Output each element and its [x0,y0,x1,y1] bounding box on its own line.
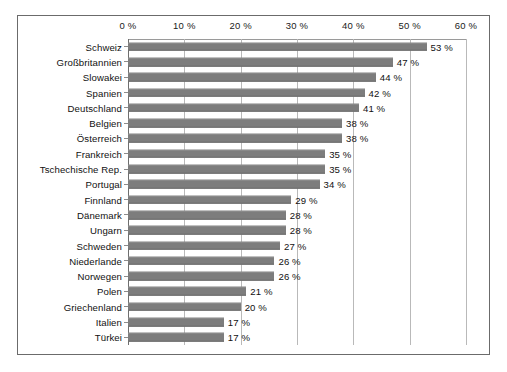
bar-row: Großbritannien47 % [0,54,507,69]
bar [128,272,274,281]
bar [128,104,359,113]
bar-value-label: 29 % [295,194,317,205]
category-label-gro-britannien: Großbritannien [57,56,122,67]
x-tick-label-40: 40 % [342,20,364,31]
bar [128,318,224,327]
x-tick-label-10: 10 % [173,20,195,31]
category-label-norwegen: Norwegen [77,271,122,282]
bar [128,257,274,266]
bar-row: Frankreich35 % [0,146,507,161]
bar-row: Portugal34 % [0,177,507,192]
bar [128,149,325,158]
bar-value-label: 20 % [245,301,267,312]
bar [128,195,291,204]
category-label-schweden: Schweden [76,240,122,251]
bar [128,165,325,174]
bar [128,58,393,67]
category-label-d-nemark: Dänemark [77,209,122,220]
bar-value-label: 42 % [369,87,391,98]
category-label-schweiz: Schweiz [86,41,122,52]
bar [128,88,365,97]
x-tick-label-20: 20 % [229,20,251,31]
bar-value-label: 44 % [380,72,402,83]
category-label-ungarn: Ungarn [90,225,122,236]
bar [128,73,376,82]
category-label-polen: Polen [97,286,122,297]
bar-value-label: 38 % [346,118,368,129]
category-label-finnland: Finnland [84,194,122,205]
category-label-belgien: Belgien [89,118,122,129]
bar-row: Schweden27 % [0,238,507,253]
bar-value-label: 26 % [278,255,300,266]
bar [128,180,320,189]
bar-value-label: 34 % [324,179,346,190]
category-label-deutschland: Deutschland [68,102,122,113]
bar-value-label: 17 % [228,332,250,343]
x-tick-label-50: 50 % [398,20,420,31]
bar-value-label: 17 % [228,317,250,328]
bar-value-label: 27 % [284,240,306,251]
bar [128,333,224,342]
bar-row: Österreich38 % [0,131,507,146]
bar [128,241,280,250]
bar-row: Spanien42 % [0,85,507,100]
bar-value-label: 28 % [290,209,312,220]
category-label--sterreich: Österreich [77,133,122,144]
bar-row: Deutschland41 % [0,100,507,115]
bar-row: Belgien38 % [0,116,507,131]
category-label-portugal: Portugal [85,179,122,190]
category-label-spanien: Spanien [86,87,122,98]
bar [128,211,286,220]
bar-row: Norwegen26 % [0,269,507,284]
bar [128,226,286,235]
bar-value-label: 28 % [290,225,312,236]
category-label-t-rkei: Türkei [95,332,122,343]
category-label-tschechische-rep-: Tschechische Rep. [40,164,122,175]
category-label-niederlande: Niederlande [69,255,122,266]
bar [128,42,427,51]
chart-root: 0 %10 %20 %30 %40 %50 %60 % Schweiz53 %G… [0,0,507,372]
bar-value-label: 47 % [397,56,419,67]
category-label-slowakei: Slowakei [83,72,122,83]
bar-value-label: 53 % [431,41,453,52]
bar-row: Dänemark28 % [0,207,507,222]
bar-row: Türkei17 % [0,330,507,345]
x-tick-label-0: 0 % [120,20,137,31]
bar-row: Polen21 % [0,284,507,299]
category-label-frankreich: Frankreich [76,148,122,159]
bar [128,302,241,311]
x-axis-tick-labels: 0 %10 %20 %30 %40 %50 %60 % [0,0,507,18]
bar-row: Finnland29 % [0,192,507,207]
bar-value-label: 35 % [329,164,351,175]
bar-row: Italien17 % [0,314,507,329]
x-tick-label-30: 30 % [286,20,308,31]
bar-value-label: 35 % [329,148,351,159]
bar-row: Niederlande26 % [0,253,507,268]
bar-value-label: 26 % [278,271,300,282]
bar-rows: Schweiz53 %Großbritannien47 %Slowakei44 … [0,39,507,345]
bar [128,287,246,296]
bar [128,119,342,128]
category-label-italien: Italien [96,317,122,328]
category-label-griechenland: Griechenland [64,301,122,312]
bar-row: Griechenland20 % [0,299,507,314]
bar-value-label: 38 % [346,133,368,144]
bar-row: Slowakei44 % [0,70,507,85]
bar-value-label: 41 % [363,102,385,113]
x-tick-label-60: 60 % [455,20,477,31]
bar-row: Ungarn28 % [0,223,507,238]
bar-row: Tschechische Rep.35 % [0,161,507,176]
bar [128,134,342,143]
bar-row: Schweiz53 % [0,39,507,54]
bar-value-label: 21 % [250,286,272,297]
